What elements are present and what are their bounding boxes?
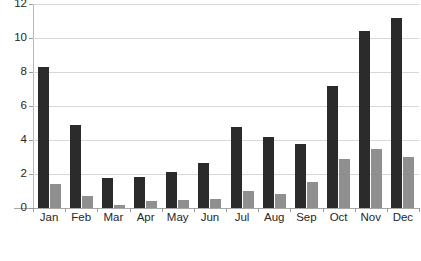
bar-group — [359, 4, 382, 208]
x-axis-tick-label: Oct — [323, 212, 355, 224]
bar-series-2-nov — [371, 149, 382, 209]
bar-series-2-feb — [82, 196, 93, 208]
bar-series-1-sep — [295, 144, 306, 208]
y-axis-tick-label: 0 — [0, 202, 27, 214]
bar-series-2-mar — [114, 205, 125, 208]
bar-series-1-apr — [134, 177, 145, 208]
bar-series-1-feb — [70, 125, 81, 208]
x-axis-tick-label: Dec — [387, 212, 419, 224]
bar-group — [391, 4, 414, 208]
bar-group — [295, 4, 318, 208]
x-axis-tick-label: Mar — [97, 212, 129, 224]
x-axis-tick-label: Feb — [65, 212, 97, 224]
x-axis-tick-label: Jun — [194, 212, 226, 224]
bar-series-2-sep — [307, 182, 318, 208]
y-axis-tick-label: 2 — [0, 168, 27, 180]
y-axis-tick-label: 4 — [0, 134, 27, 146]
bar-series-1-may — [166, 172, 177, 208]
bar-group — [38, 4, 61, 208]
bar-series-2-oct — [339, 159, 350, 208]
bar-series-2-may — [178, 200, 189, 208]
plot-area — [33, 4, 419, 208]
bar-series-2-jun — [210, 199, 221, 208]
bar-series-1-oct — [327, 86, 338, 208]
bar-group — [263, 4, 286, 208]
x-axis-tick-label: Jan — [33, 212, 65, 224]
y-axis-tick-label: 12 — [0, 0, 27, 10]
x-axis-tick-label: Sep — [290, 212, 322, 224]
bar-series-1-nov — [359, 31, 370, 208]
bar-series-1-aug — [263, 137, 274, 208]
x-axis-tick-label: Jul — [226, 212, 258, 224]
bar-chart: 024681012 JanFebMarAprMayJunJulAugSepOct… — [0, 0, 421, 261]
bar-group — [327, 4, 350, 208]
x-axis-tick-label: May — [162, 212, 194, 224]
bar-group — [198, 4, 221, 208]
bar-series-1-jun — [198, 163, 209, 208]
x-axis-tick-label: Aug — [258, 212, 290, 224]
bar-group — [231, 4, 254, 208]
bar-series-1-mar — [102, 178, 113, 208]
x-axis-tick-label: Apr — [130, 212, 162, 224]
y-axis-tick-label: 10 — [0, 32, 27, 44]
bar-series-2-jan — [50, 184, 61, 208]
bar-series-2-dec — [403, 157, 414, 208]
bar-group — [70, 4, 93, 208]
bar-series-2-aug — [275, 194, 286, 208]
bar-group — [134, 4, 157, 208]
y-axis-tick-label: 6 — [0, 100, 27, 112]
bar-series-1-jul — [231, 127, 242, 208]
y-axis-tick-label: 8 — [0, 66, 27, 78]
bar-series-1-dec — [391, 18, 402, 208]
bar-group — [166, 4, 189, 208]
bar-group — [102, 4, 125, 208]
bar-series-2-jul — [243, 191, 254, 208]
bar-series-2-apr — [146, 201, 157, 208]
x-axis-tick — [419, 208, 420, 212]
bar-series-1-jan — [38, 67, 49, 208]
x-axis-tick-label: Nov — [355, 212, 387, 224]
